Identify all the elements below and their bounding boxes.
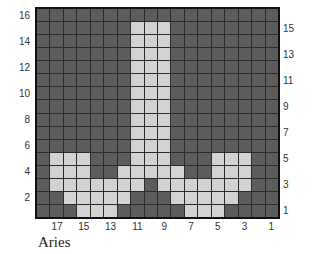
- grid-cell: [104, 140, 116, 152]
- grid-cell: [118, 22, 130, 34]
- grid-cell: [91, 179, 103, 191]
- grid-cell: [171, 179, 183, 191]
- grid-cell: [239, 61, 251, 73]
- grid-cell: [185, 87, 197, 99]
- grid-cell: [266, 153, 278, 165]
- grid-cell: [185, 48, 197, 60]
- row-label-right: 11: [283, 76, 313, 86]
- column-label: 11: [127, 222, 147, 232]
- grid-cell: [64, 153, 76, 165]
- grid-cell: [77, 114, 89, 126]
- grid-cell: [266, 35, 278, 47]
- grid-cell: [145, 127, 157, 139]
- grid-cell: [252, 179, 264, 191]
- grid-cell: [239, 35, 251, 47]
- grid-cell: [158, 205, 170, 217]
- grid-cell: [145, 114, 157, 126]
- grid-cell: [198, 48, 210, 60]
- grid-cell: [239, 100, 251, 112]
- grid-cell: [252, 192, 264, 204]
- grid-cell: [158, 140, 170, 152]
- grid-cell: [50, 9, 62, 21]
- grid-cell: [252, 140, 264, 152]
- grid-cell: [64, 74, 76, 86]
- grid-cell: [37, 100, 49, 112]
- grid-cell: [158, 100, 170, 112]
- grid-cell: [252, 153, 264, 165]
- grid-cell: [158, 22, 170, 34]
- grid-cell: [118, 9, 130, 21]
- grid-cell: [158, 114, 170, 126]
- grid-cell: [171, 35, 183, 47]
- grid-cell: [171, 127, 183, 139]
- grid-cell: [131, 9, 143, 21]
- grid-cell: [158, 74, 170, 86]
- grid-cell: [104, 114, 116, 126]
- grid-cell: [225, 48, 237, 60]
- grid-cell: [185, 114, 197, 126]
- grid-cell: [131, 179, 143, 191]
- grid-cell: [64, 179, 76, 191]
- grid-cell: [50, 48, 62, 60]
- grid-cell: [225, 114, 237, 126]
- grid-cell: [64, 114, 76, 126]
- grid-cell: [198, 35, 210, 47]
- row-label-right: 3: [283, 180, 313, 190]
- grid-cell: [77, 192, 89, 204]
- grid-cell: [77, 22, 89, 34]
- grid-cell: [50, 179, 62, 191]
- grid-cell: [252, 35, 264, 47]
- grid-cell: [131, 127, 143, 139]
- grid-cell: [185, 127, 197, 139]
- grid-cell: [225, 127, 237, 139]
- grid-cell: [37, 48, 49, 60]
- grid-cell: [37, 87, 49, 99]
- grid-cell: [225, 100, 237, 112]
- grid-cell: [91, 87, 103, 99]
- grid-cell: [37, 166, 49, 178]
- row-label-right: 7: [283, 128, 313, 138]
- grid-cell: [212, 9, 224, 21]
- grid-cell: [266, 61, 278, 73]
- grid-cell: [77, 61, 89, 73]
- grid-cell: [91, 114, 103, 126]
- grid-cell: [198, 166, 210, 178]
- grid-cell: [212, 100, 224, 112]
- grid-cell: [171, 9, 183, 21]
- grid-cell: [91, 205, 103, 217]
- grid-cell: [171, 153, 183, 165]
- grid-cell: [50, 153, 62, 165]
- column-label: 17: [47, 222, 67, 232]
- grid-cell: [104, 192, 116, 204]
- grid-cell: [64, 100, 76, 112]
- grid-cell: [91, 153, 103, 165]
- grid-cell: [239, 9, 251, 21]
- grid-cell: [185, 140, 197, 152]
- grid-cell: [50, 114, 62, 126]
- grid-cell: [118, 192, 130, 204]
- row-label-right: 15: [283, 24, 313, 34]
- grid-cell: [145, 9, 157, 21]
- grid-cell: [212, 127, 224, 139]
- grid-cell: [77, 153, 89, 165]
- grid-cell: [212, 61, 224, 73]
- grid-cell: [37, 9, 49, 21]
- grid-cell: [239, 48, 251, 60]
- grid-cell: [145, 140, 157, 152]
- grid-cell: [37, 35, 49, 47]
- grid-cell: [64, 87, 76, 99]
- grid-cell: [225, 140, 237, 152]
- grid-cell: [185, 22, 197, 34]
- grid-cell: [212, 87, 224, 99]
- grid-cell: [37, 74, 49, 86]
- grid-cell: [104, 74, 116, 86]
- grid-cell: [185, 74, 197, 86]
- grid-cell: [91, 127, 103, 139]
- grid-cell: [239, 153, 251, 165]
- grid-cell: [77, 48, 89, 60]
- grid-cell: [118, 100, 130, 112]
- grid-cell: [198, 22, 210, 34]
- grid-cell: [171, 22, 183, 34]
- grid-cell: [252, 48, 264, 60]
- grid-cell: [225, 87, 237, 99]
